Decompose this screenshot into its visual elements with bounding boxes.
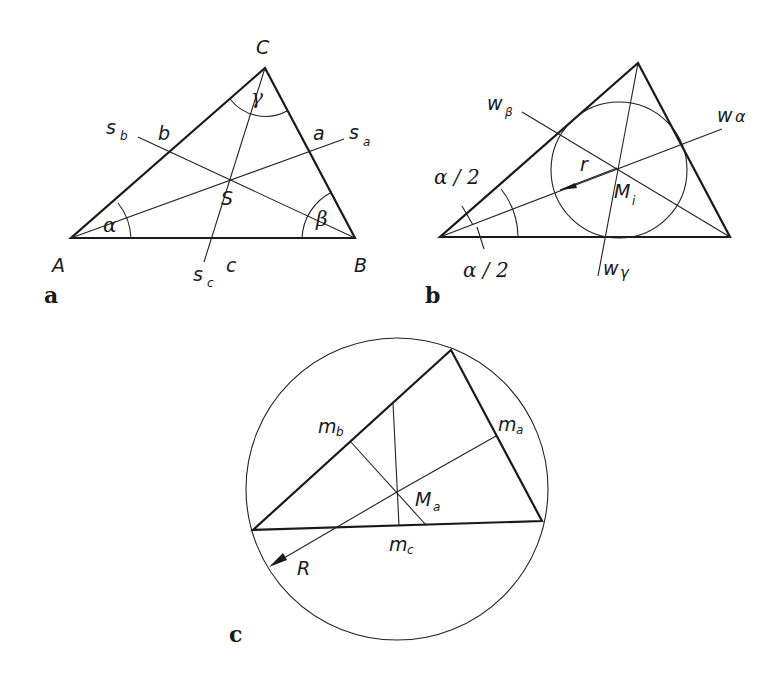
svg-text:s: s — [106, 116, 116, 138]
panel-label-c: c — [229, 621, 242, 647]
incenter-label: M i — [614, 180, 636, 208]
panel-b-incircle: α / 2 α / 2 r M i w β w α w γ b — [425, 63, 746, 308]
svg-text:m: m — [389, 533, 408, 555]
svg-text:a: a — [363, 135, 370, 149]
radius-label-R: R — [297, 557, 310, 579]
svg-text:γ: γ — [620, 264, 630, 282]
svg-text:α: α — [735, 107, 746, 126]
bisector-label-w-gamma: w γ — [603, 257, 630, 282]
half-angle-label-top: α / 2 — [434, 165, 480, 189]
perp-bisector-label-mb: m b — [318, 415, 344, 439]
svg-text:w: w — [487, 92, 503, 114]
vertex-label-c: C — [256, 36, 270, 58]
svg-text:a: a — [516, 423, 523, 437]
circumcenter-label: M a — [415, 488, 440, 514]
panel-label-a: a — [44, 282, 58, 308]
vertex-label-a: A — [50, 254, 65, 276]
median-label-sb: s b — [106, 116, 128, 143]
median-label-sc: s c — [193, 263, 214, 290]
svg-text:β: β — [504, 105, 513, 119]
panel-label-b: b — [425, 282, 440, 308]
perp-bisector-label-ma: m a — [498, 413, 523, 437]
angle-label-gamma: γ — [251, 85, 263, 109]
svg-text:b: b — [120, 129, 128, 143]
side-label-a: a — [313, 122, 325, 144]
svg-text:c: c — [407, 543, 414, 557]
angle-label-beta: β — [315, 207, 328, 231]
bisector-w-beta — [522, 112, 730, 237]
centroid-label-s: S — [221, 187, 233, 209]
svg-text:i: i — [632, 194, 636, 208]
svg-text:c: c — [207, 276, 214, 290]
svg-text:b: b — [336, 425, 344, 439]
radius-arrowhead-icon — [560, 183, 577, 190]
svg-text:s: s — [349, 121, 359, 143]
triangle-centers-figure: C A B b a c α β γ S s b s a s c a — [0, 0, 780, 674]
radius-label-r: r — [580, 153, 589, 175]
bisector-w-alpha — [440, 129, 722, 237]
bisector-label-w-beta: w β — [487, 92, 513, 119]
median-label-sa: s a — [349, 121, 370, 149]
side-label-b: b — [158, 122, 170, 144]
svg-text:M: M — [415, 488, 431, 510]
radius-arrowhead-icon — [269, 553, 287, 567]
bisector-w-gamma — [598, 63, 638, 276]
svg-text:m: m — [498, 413, 517, 435]
bisector-label-w-alpha: w α — [717, 104, 746, 126]
svg-text:a: a — [433, 500, 440, 514]
half-angle-label-bottom: α / 2 — [463, 258, 509, 282]
angle-label-alpha: α — [103, 213, 117, 237]
panel-a-centroid: C A B b a c α β γ S s b s a s c a — [44, 36, 370, 308]
vertex-label-b: B — [354, 254, 367, 276]
svg-text:w: w — [603, 257, 619, 279]
svg-text:M: M — [614, 180, 630, 202]
panel-c-circumcircle: m b m a m c M a R c — [229, 338, 548, 647]
perp-bisector-label-mc: m c — [389, 533, 414, 557]
svg-text:s: s — [193, 263, 203, 285]
svg-text:m: m — [318, 415, 337, 437]
perp-bisector-ma — [397, 436, 496, 492]
side-label-c: c — [226, 254, 237, 276]
perp-bisector-mc — [393, 403, 399, 526]
svg-text:w: w — [717, 104, 733, 126]
